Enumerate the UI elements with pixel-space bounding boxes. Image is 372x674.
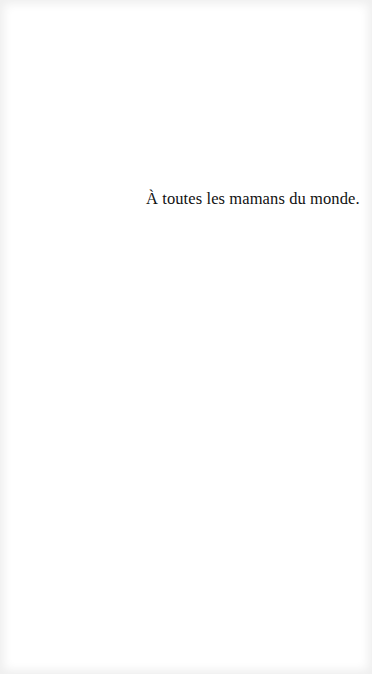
dedication-text: À toutes les mamans du monde. [146, 189, 360, 209]
book-page: À toutes les mamans du monde. [0, 0, 372, 674]
